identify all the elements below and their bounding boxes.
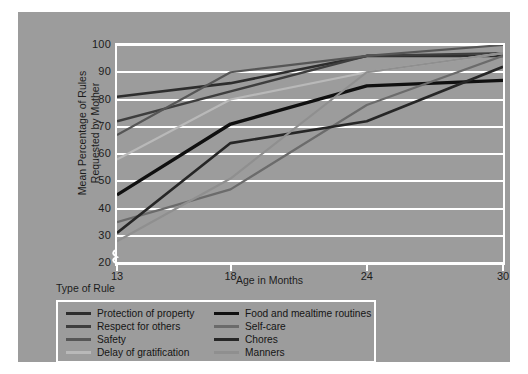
legend-swatch-icon	[214, 312, 239, 315]
y-tick-100: 100	[81, 39, 111, 50]
x-tick-30: 30	[483, 270, 523, 282]
x-tick-24: 24	[347, 270, 387, 282]
legend-label: Food and mealtime routines	[245, 308, 371, 320]
chart-canvas: Mean Percentage of Rules Requested by Mo…	[18, 12, 510, 362]
legend-swatch-icon	[66, 351, 91, 353]
legend-label: Protection of property	[97, 308, 194, 320]
legend-swatch-icon	[214, 351, 239, 353]
x-axis-title: Age in Months	[236, 274, 303, 286]
legend-swatch-icon	[214, 325, 239, 327]
legend-item-food-and-mealtime-routines[interactable]: Food and mealtime routines	[214, 307, 370, 320]
legend-box: Protection of propertyFood and mealtime …	[56, 300, 376, 363]
legend-item-respect-for-others[interactable]: Respect for others	[66, 320, 214, 333]
plot-inner	[117, 45, 503, 263]
x-tick-13: 13	[97, 270, 137, 282]
legend-swatch-icon	[214, 338, 239, 341]
y-tick-70: 70	[81, 121, 111, 132]
legend-swatch-icon	[66, 338, 91, 340]
legend-item-chores[interactable]: Chores	[214, 333, 370, 346]
y-tick-50: 50	[81, 175, 111, 186]
legend-label: Safety	[97, 334, 126, 346]
legend-label: Delay of gratification	[97, 347, 189, 359]
plot-area	[115, 43, 505, 265]
legend-swatch-icon	[66, 325, 91, 327]
y-tick-30: 30	[81, 230, 111, 241]
y-tick-60: 60	[81, 148, 111, 159]
legend-label: Manners	[245, 347, 285, 359]
legend-item-self-care[interactable]: Self-care	[214, 320, 370, 333]
series-lines	[117, 45, 503, 263]
legend-item-protection-of-property[interactable]: Protection of property	[66, 307, 214, 320]
legend-item-manners[interactable]: Manners	[214, 346, 370, 359]
legend-label: Chores	[245, 334, 278, 346]
legend-label: Self-care	[245, 321, 286, 333]
legend-item-delay-of-gratification[interactable]: Delay of gratification	[66, 346, 214, 359]
y-tick-80: 80	[81, 94, 111, 105]
y-tick-20: 20	[81, 257, 111, 268]
y-tick-90: 90	[81, 66, 111, 77]
legend-swatch-icon	[66, 312, 91, 315]
legend-title: Type of Rule	[56, 282, 115, 294]
series-line-self-care	[117, 56, 503, 222]
legend-grid: Protection of propertyFood and mealtime …	[66, 307, 370, 359]
legend-item-safety[interactable]: Safety	[66, 333, 214, 346]
y-tick-40: 40	[81, 203, 111, 214]
legend-label: Respect for others	[97, 321, 180, 333]
figure-root: Mean Percentage of Rules Requested by Mo…	[0, 0, 528, 374]
series-line-food-and-mealtime-routines	[117, 80, 503, 194]
